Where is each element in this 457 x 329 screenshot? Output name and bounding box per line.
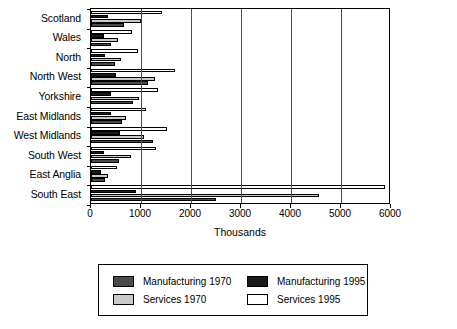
bar (91, 127, 167, 131)
gridline (341, 9, 342, 203)
bar (91, 49, 138, 53)
bar (91, 88, 158, 92)
legend-label: Services 1995 (277, 294, 340, 305)
bar-group (91, 48, 389, 67)
y-tick (87, 146, 91, 147)
y-tick (87, 68, 91, 69)
legend-label: Manufacturing 1970 (143, 276, 231, 287)
bar (91, 23, 124, 27)
chart-plot-area: ScotlandWalesNorthNorth WestYorkshireEas… (0, 0, 457, 250)
legend-swatch (247, 294, 268, 305)
y-axis-label: North (0, 47, 86, 67)
legend-label: Manufacturing 1995 (277, 276, 365, 287)
bar (91, 38, 118, 42)
bar-group (91, 87, 389, 106)
legend-item: Manufacturing 1970 (113, 276, 233, 287)
bar-group (91, 28, 389, 47)
y-axis-label: Wales (0, 28, 86, 48)
bar (91, 73, 116, 77)
bar-group (91, 145, 389, 164)
bar (91, 140, 153, 144)
bar (91, 54, 105, 58)
bar-groups (91, 9, 389, 203)
bar (91, 159, 119, 163)
bar (91, 101, 133, 105)
bar (91, 62, 115, 66)
gridline (191, 9, 192, 203)
bar (91, 190, 136, 194)
y-axis-label: West Midlands (0, 126, 86, 146)
bar (91, 30, 132, 34)
bar-group (91, 106, 389, 125)
bar (91, 116, 126, 120)
x-axis-tick-labels: 0100020003000400050006000 (90, 208, 390, 222)
bar (91, 43, 111, 47)
bar (91, 92, 111, 96)
y-axis-label: Yorkshire (0, 86, 86, 106)
bar (91, 108, 146, 112)
gridline (241, 9, 242, 203)
y-axis-label: East Anglia (0, 165, 86, 185)
y-tick (87, 107, 91, 108)
bar (91, 155, 131, 159)
x-tick-label: 6000 (379, 208, 401, 219)
gridline (141, 9, 142, 203)
bar-group (91, 67, 389, 86)
x-axis-title: Thousands (90, 226, 390, 238)
x-tick-label: 3000 (229, 208, 251, 219)
plot-axes (90, 8, 390, 204)
bar (91, 15, 108, 19)
legend-item: Manufacturing 1995 (247, 276, 367, 287)
legend-item: Services 1970 (113, 294, 233, 305)
legend-swatch (113, 276, 134, 287)
legend-label: Services 1970 (143, 294, 206, 305)
y-tick (87, 127, 91, 128)
y-tick (87, 166, 91, 167)
legend-swatch (113, 294, 134, 305)
bar-group (91, 9, 389, 28)
bar (91, 178, 105, 182)
bar (91, 120, 122, 124)
y-axis-label: North West (0, 67, 86, 87)
x-tick-label: 0 (87, 208, 93, 219)
bar-group (91, 125, 389, 144)
y-axis-label: Scotland (0, 8, 86, 28)
bar (91, 147, 156, 151)
bar (91, 194, 319, 198)
legend-item: Services 1995 (247, 294, 367, 305)
y-tick (87, 48, 91, 49)
bar (91, 174, 108, 178)
y-tick (87, 87, 91, 88)
bar (91, 11, 162, 15)
bar (91, 198, 216, 202)
bar (91, 58, 121, 62)
chart-root: ScotlandWalesNorthNorth WestYorkshireEas… (0, 0, 457, 329)
bar (91, 97, 139, 101)
x-tick-label: 2000 (179, 208, 201, 219)
y-axis-label: South East (0, 184, 86, 204)
bar (91, 151, 104, 155)
bar (91, 34, 104, 38)
y-axis-category-labels: ScotlandWalesNorthNorth WestYorkshireEas… (0, 8, 86, 204)
y-axis-label: East Midlands (0, 106, 86, 126)
bar (91, 81, 148, 85)
y-tick (87, 185, 91, 186)
bar (91, 112, 111, 116)
x-tick-label: 5000 (329, 208, 351, 219)
x-tick-label: 4000 (279, 208, 301, 219)
legend-swatch (247, 276, 268, 287)
bar (91, 166, 117, 170)
chart-legend: Manufacturing 1970Services 1970 Manufact… (98, 264, 368, 316)
bar (91, 131, 120, 135)
bar (91, 170, 101, 174)
bar (91, 69, 175, 73)
x-tick-label: 1000 (129, 208, 151, 219)
y-axis-label: South West (0, 145, 86, 165)
bar (91, 135, 144, 139)
bar-group (91, 164, 389, 183)
bar-group (91, 184, 389, 203)
bar (91, 19, 141, 23)
bar (91, 77, 155, 81)
y-tick (87, 29, 91, 30)
legend-column-right: Manufacturing 1995Services 1995 (233, 265, 367, 315)
